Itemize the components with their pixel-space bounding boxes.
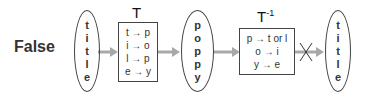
mapping: p → t or l	[247, 32, 288, 45]
inverse-transform-box: p → t or l o → i y → e	[239, 28, 295, 75]
transform-box: t → p i → o l → p e → y	[118, 22, 158, 82]
letter: t	[85, 19, 89, 32]
letter: i	[336, 32, 339, 45]
letter: i	[85, 32, 88, 45]
letter: y	[194, 71, 200, 84]
inverse-transform-title: T-1	[257, 8, 274, 25]
mapping: e → y	[125, 65, 151, 78]
arrowhead-1-icon	[110, 47, 118, 57]
mapping: t → p	[126, 26, 150, 39]
letter: p	[194, 58, 201, 71]
letter: t	[336, 19, 340, 32]
arrowhead-2-icon	[172, 47, 180, 57]
letter: e	[335, 71, 341, 84]
letter: e	[84, 71, 90, 84]
mapping: l → p	[126, 52, 149, 65]
encoded-word-ellipse: p o p p y	[181, 10, 214, 92]
mapping: o → i	[255, 45, 278, 58]
letter: t	[336, 45, 340, 58]
input-word-ellipse: t i t l e	[74, 10, 100, 92]
letter: l	[336, 58, 339, 71]
letter: p	[194, 19, 201, 32]
transform-title: T	[132, 4, 141, 21]
letter: l	[85, 58, 88, 71]
output-word-ellipse: t i t l e	[325, 10, 351, 92]
letter: p	[194, 45, 201, 58]
arrowhead-4-icon	[316, 47, 324, 57]
mapping: i → o	[126, 39, 149, 52]
letter: t	[85, 45, 89, 58]
letter: o	[194, 32, 201, 45]
mapping: y → e	[254, 58, 280, 71]
